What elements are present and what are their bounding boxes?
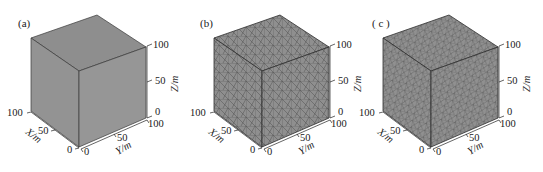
x-tick: 0 [250, 144, 255, 155]
panel-a: (a) 100 50 0 Z/m 100 50 0 X/m [7, 15, 180, 157]
y-tick: 100 [148, 118, 164, 129]
y-tick: 0 [436, 146, 441, 157]
panel-label: (b) [200, 17, 213, 30]
x-tick: 0 [67, 144, 72, 155]
z-tick: 0 [507, 106, 512, 117]
z-tick: 0 [338, 106, 343, 117]
x-tick: 100 [7, 107, 23, 118]
z-axis [330, 44, 335, 118]
z-tick: 100 [336, 39, 352, 50]
z-axis-title: Z/m [521, 75, 532, 92]
z-tick: 0 [155, 106, 160, 117]
panel-c: ( c ) 100 50 0 Z/m 100 50 0 X/m [359, 15, 532, 157]
z-axis-title: Z/m [352, 75, 363, 92]
z-tick: 50 [155, 75, 166, 86]
z-tick: 100 [153, 39, 169, 50]
z-axis [147, 44, 152, 118]
z-tick: 100 [505, 39, 521, 50]
y-tick: 0 [84, 146, 89, 157]
panel-label: ( c ) [372, 17, 390, 30]
z-tick: 50 [507, 75, 518, 86]
y-tick: 0 [267, 146, 272, 157]
z-tick: 50 [338, 75, 349, 86]
panel-b: (b) 100 50 0 Z/m 100 50 0 X/m [190, 15, 363, 157]
y-tick: 100 [331, 118, 347, 129]
panel-label: (a) [18, 17, 31, 30]
x-tick: 100 [190, 107, 206, 118]
x-tick: 0 [419, 144, 424, 155]
figure-three-cube-panels: (a) 100 50 0 Z/m 100 50 0 X/m [0, 0, 543, 172]
y-tick: 100 [500, 118, 516, 129]
z-axis-title: Z/m [169, 75, 180, 92]
z-axis [499, 44, 504, 118]
x-tick: 100 [359, 107, 375, 118]
